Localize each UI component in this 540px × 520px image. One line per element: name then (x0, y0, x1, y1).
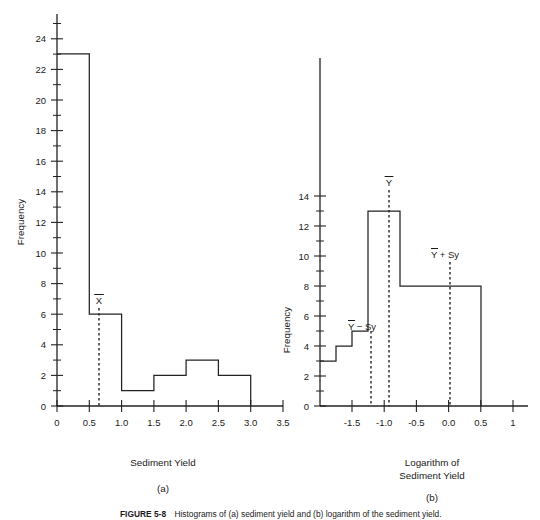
panel-b-y-ticklabels: 0 2 4 6 8 10 12 14 (298, 191, 309, 412)
panel-b-xtick-5: 1 (510, 417, 515, 428)
panel-a-ytick-6: 6 (41, 309, 46, 320)
panel-a-ytick-12: 12 (35, 217, 46, 228)
panel-a-ytick-20: 20 (35, 95, 46, 106)
panel-b-ylabel: Frequency (281, 307, 292, 353)
panel-a-xtick-3: 1.5 (147, 417, 160, 428)
panel-b-ytick-6: 6 (304, 311, 309, 322)
panel-a-ytick-4: 4 (41, 339, 46, 350)
panel-b-mean-minus-sy-text: Y − Sy (348, 321, 376, 332)
panel-b-ytick-0: 0 (304, 401, 309, 412)
panel-a-ytick-16: 16 (35, 156, 46, 167)
panel-b-xtick-3: 0.0 (442, 417, 455, 428)
panel-b-ytick-4: 4 (304, 341, 309, 352)
figure-container: 0 2 4 6 8 10 12 14 16 18 20 22 24 (0, 0, 540, 520)
figure-svg: 0 2 4 6 8 10 12 14 16 18 20 22 24 (0, 0, 540, 520)
panel-b-xtick-1: -1.0 (376, 417, 392, 428)
panel-b-mean-minus-sy-label: Y − Sy (348, 321, 376, 333)
panel-b-ytick-10: 10 (298, 251, 309, 262)
panel-a-ytick-0: 0 (41, 401, 46, 412)
panel-a-ytick-14: 14 (35, 186, 46, 197)
panel-a-letter: (a) (157, 483, 169, 494)
panel-a-ytick-8: 8 (41, 278, 46, 289)
panel-b-ytick-2: 2 (304, 371, 309, 382)
panel-a-xtick-0: 0 (54, 417, 59, 428)
panel-a-y-ticklabels: 0 2 4 6 8 10 12 14 16 18 20 22 24 (35, 33, 46, 411)
panel-b-xtick-2: -0.5 (408, 417, 424, 428)
panel-b-xlabel-line2: Sediment Yield (399, 470, 464, 481)
panel-a-mean-marker: X (94, 295, 104, 407)
panel-b-xlabel-line1: Logarithm of (405, 457, 460, 468)
caption-bold-part: FIGURE 5-8 (120, 509, 166, 519)
caption-line: FIGURE 5-8 Histograms of (a) sediment yi… (120, 509, 442, 519)
panel-b-mean-plus-sy-text: Y + Sy (431, 249, 459, 260)
panel-a-ytick-24: 24 (35, 33, 46, 44)
panel-a-xtick-1: 0.5 (83, 417, 96, 428)
panel-b-mean-plus-sy-label: Y + Sy (431, 249, 459, 261)
panel-b-letter: (b) (426, 492, 438, 503)
panel-b-ytick-12: 12 (298, 221, 309, 232)
panel-a-xlabel: Sediment Yield (130, 457, 195, 468)
caption-text-part: Histograms of (a) sediment yield and (b)… (174, 509, 441, 519)
panel-a-ytick-18: 18 (35, 125, 46, 136)
panel-a-xtick-5: 2.5 (212, 417, 225, 428)
panel-b-histogram (320, 211, 481, 406)
panel-a-histogram (57, 54, 251, 406)
panel-a: 0 2 4 6 8 10 12 14 16 18 20 22 24 (15, 14, 290, 494)
panel-a-xtick-7: 3.5 (276, 417, 289, 428)
figure-caption: FIGURE 5-8 Histograms of (a) sediment yi… (120, 509, 442, 519)
panel-b-xtick-0: -1.5 (344, 417, 360, 428)
panel-b-x-ticklabels: -1.5 -1.0 -0.5 0.0 0.5 1 (344, 417, 516, 428)
panel-b-ytick-14: 14 (298, 191, 309, 202)
panel-a-xtick-4: 2.0 (179, 417, 192, 428)
panel-a-ylabel: Frequency (15, 199, 26, 245)
panel-b-mean-y-text: Y (386, 177, 393, 188)
panel-a-ytick-10: 10 (35, 248, 46, 259)
panel-b-xtick-4: 0.5 (474, 417, 487, 428)
panel-b-ytick-8: 8 (304, 281, 309, 292)
panel-a-x-ticklabels: 0 0.5 1.0 1.5 2.0 2.5 3.0 3.5 (54, 417, 289, 428)
panel-a-xtick-6: 3.0 (244, 417, 257, 428)
panel-b-mean-plus-sy-marker: Y + Sy (431, 249, 459, 407)
panel-a-mean-label: X (96, 295, 103, 306)
panel-a-xtick-2: 1.0 (115, 417, 128, 428)
panel-b: 0 2 4 6 8 10 12 14 -1.5 -1.0 (281, 58, 528, 503)
panel-a-ytick-22: 22 (35, 64, 46, 75)
panel-a-ytick-2: 2 (41, 370, 46, 381)
